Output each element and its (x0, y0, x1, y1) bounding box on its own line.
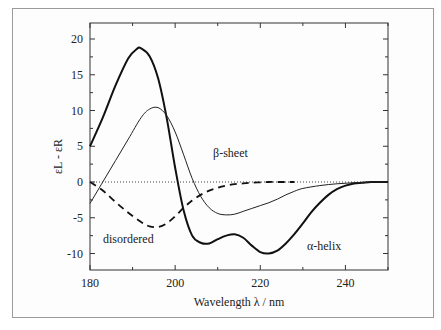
x-tick-label: 240 (336, 276, 354, 290)
y-tick-label: 20 (71, 32, 83, 46)
annotation-helix: α-helix (307, 239, 341, 253)
y-tick-label: 10 (71, 104, 83, 118)
series-sheet-curve (90, 107, 388, 215)
y-tick-label: -10 (67, 247, 83, 261)
y-tick-label: 5 (77, 139, 83, 153)
y-axis-label: εL - εR (51, 139, 65, 174)
x-tick-label: 180 (81, 276, 99, 290)
y-tick-label: -5 (73, 211, 83, 225)
x-tick-label: 200 (166, 276, 184, 290)
y-tick-label: 0 (77, 175, 83, 189)
x-tick-label: 220 (251, 276, 269, 290)
annotation-disordered: disordered (103, 232, 154, 246)
annotation-sheet: β-sheet (213, 146, 248, 160)
cd-spectrum-chart: 180200220240-10-505101520Wavelength λ / … (0, 0, 441, 330)
x-axis-label: Wavelength λ / nm (194, 295, 285, 309)
y-tick-label: 15 (71, 68, 83, 82)
